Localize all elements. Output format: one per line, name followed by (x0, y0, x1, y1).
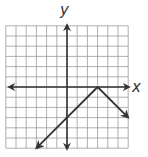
coordinate-plane (0, 0, 148, 157)
x-axis-label: x (132, 78, 141, 96)
y-axis-label: y (60, 1, 69, 19)
axes (9, 25, 129, 149)
right-branch-ray (98, 87, 129, 118)
